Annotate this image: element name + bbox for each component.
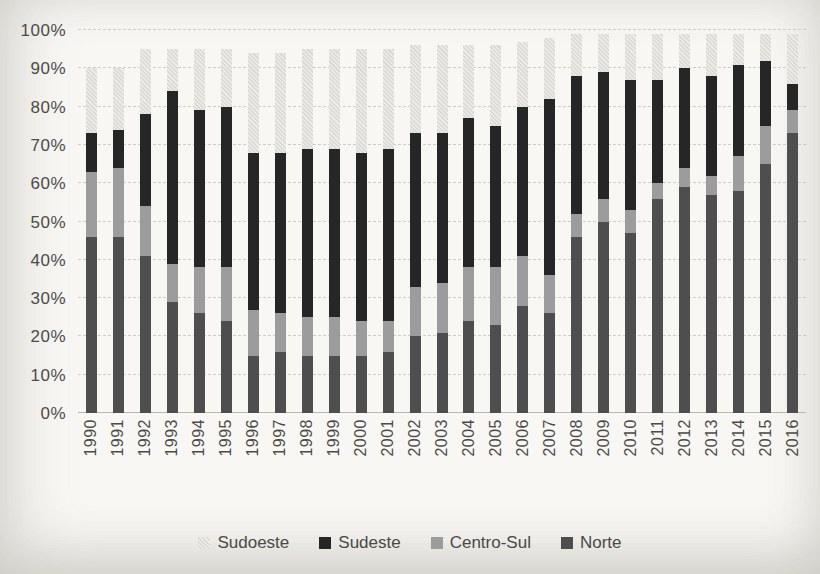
x-tick-1991: 1991: [105, 419, 131, 475]
x-tick-1993: 1993: [159, 419, 185, 475]
segment-centro-sul-2013: [706, 176, 717, 195]
segment-sudoeste-1993: [167, 49, 178, 91]
chart-page: 1990199119921993199419951996199719981999…: [0, 0, 820, 574]
segment-sudoeste-1999: [329, 49, 340, 149]
segment-sudeste-2003: [437, 133, 448, 282]
segment-norte-1996: [248, 356, 259, 413]
segment-sudoeste-2004: [463, 45, 474, 118]
x-tick-label: 2000: [353, 419, 369, 457]
bar-2006: [517, 42, 528, 413]
segment-centro-sul-1993: [167, 264, 178, 302]
segment-centro-sul-2009: [598, 199, 609, 222]
x-tick-2002: 2002: [402, 419, 428, 475]
segment-centro-sul-1990: [86, 172, 97, 237]
x-tick-label: 1994: [191, 419, 207, 457]
segment-centro-sul-1997: [275, 313, 286, 351]
x-tick-2007: 2007: [537, 419, 563, 475]
x-tick-2001: 2001: [375, 419, 401, 475]
x-tick-label: 2001: [380, 419, 396, 457]
segment-sudeste-2012: [679, 68, 690, 168]
segment-centro-sul-1994: [194, 267, 205, 313]
x-tick-1999: 1999: [321, 419, 347, 475]
segment-centro-sul-1992: [140, 206, 151, 256]
x-tick-label: 1992: [137, 419, 153, 457]
segment-sudeste-2009: [598, 72, 609, 198]
x-tick-2011: 2011: [645, 419, 671, 475]
segment-norte-2004: [463, 321, 474, 413]
segment-sudeste-2016: [787, 84, 798, 111]
segment-sudoeste-2001: [383, 49, 394, 149]
segment-sudeste-2006: [517, 107, 528, 256]
segment-sudeste-1991: [113, 130, 124, 168]
segment-sudeste-2007: [544, 99, 555, 275]
segment-sudeste-2008: [571, 76, 582, 214]
segment-sudoeste-1991: [113, 68, 124, 129]
bar-2004: [463, 45, 474, 413]
x-tick-label: 2013: [704, 419, 720, 457]
segment-norte-2010: [625, 233, 636, 413]
segment-sudeste-1992: [140, 114, 151, 206]
legend-item-sudeste: Sudeste: [319, 533, 400, 553]
x-tick-label: 1996: [245, 419, 261, 457]
x-tick-label: 1990: [83, 419, 99, 457]
segment-sudeste-1990: [86, 133, 97, 171]
segment-centro-sul-2007: [544, 275, 555, 313]
segment-norte-2015: [760, 164, 771, 413]
segment-norte-2014: [733, 191, 744, 413]
x-tick-2009: 2009: [591, 419, 617, 475]
segment-centro-sul-2010: [625, 210, 636, 233]
plot-area: [78, 30, 806, 413]
segment-centro-sul-2005: [490, 267, 501, 324]
segment-sudoeste-1997: [275, 53, 286, 153]
segment-sudeste-2001: [383, 149, 394, 321]
legend-swatch-centro-sul: [431, 537, 443, 549]
segment-centro-sul-1995: [221, 267, 232, 321]
segment-sudoeste-2016: [787, 34, 798, 84]
bar-2008: [571, 34, 582, 413]
x-tick-label: 2015: [758, 419, 774, 457]
segment-norte-2002: [410, 336, 421, 413]
x-tick-label: 1991: [110, 419, 126, 457]
segment-sudoeste-2013: [706, 34, 717, 76]
segment-sudoeste-2000: [356, 49, 367, 152]
segment-sudeste-2013: [706, 76, 717, 176]
bar-1991: [113, 68, 124, 413]
segment-sudeste-1999: [329, 149, 340, 318]
legend-swatch-norte: [561, 537, 573, 549]
segment-sudoeste-1990: [86, 68, 97, 133]
x-tick-label: 2012: [677, 419, 693, 457]
segment-sudoeste-2008: [571, 34, 582, 76]
segment-norte-1992: [140, 256, 151, 413]
segment-sudeste-2015: [760, 61, 771, 126]
segment-norte-1999: [329, 356, 340, 413]
y-tick-20%: 20%: [0, 328, 66, 345]
x-tick-label: 2016: [785, 419, 801, 457]
bar-2014: [733, 34, 744, 413]
x-tick-label: 2006: [515, 419, 531, 457]
segment-sudoeste-2005: [490, 45, 501, 125]
segment-centro-sul-1996: [248, 310, 259, 356]
bar-1996: [248, 53, 259, 413]
segment-norte-2011: [652, 199, 663, 413]
y-tick-30%: 30%: [0, 290, 66, 307]
segment-centro-sul-2006: [517, 256, 528, 306]
bar-2000: [356, 49, 367, 413]
bar-2002: [410, 45, 421, 413]
segment-sudeste-2004: [463, 118, 474, 267]
x-tick-label: 2004: [461, 419, 477, 457]
x-tick-label: 1997: [272, 419, 288, 457]
bar-2013: [706, 34, 717, 413]
x-tick-1996: 1996: [240, 419, 266, 475]
segment-sudoeste-1998: [302, 49, 313, 149]
legend: SudoesteSudesteCentro-SulNorte: [0, 533, 820, 553]
segment-sudeste-1993: [167, 91, 178, 263]
bar-2009: [598, 34, 609, 413]
x-tick-label: 2009: [596, 419, 612, 457]
segment-sudeste-1996: [248, 153, 259, 310]
segment-sudeste-2014: [733, 65, 744, 157]
x-tick-label: 2008: [569, 419, 585, 457]
segment-centro-sul-2002: [410, 287, 421, 337]
bar-2005: [490, 45, 501, 413]
y-tick-70%: 70%: [0, 136, 66, 153]
y-tick-10%: 10%: [0, 366, 66, 383]
